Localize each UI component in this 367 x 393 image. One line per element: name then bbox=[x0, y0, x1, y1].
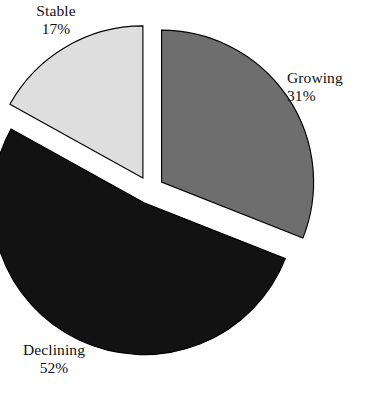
pie-slices-group bbox=[0, 26, 314, 355]
slice-label-declining-name: Declining bbox=[2, 341, 106, 359]
slice-label-growing: Growing 31% bbox=[287, 69, 367, 106]
pie-chart-canvas bbox=[0, 0, 367, 393]
slice-label-stable-percent: 17% bbox=[14, 20, 98, 38]
slice-label-growing-name: Growing bbox=[287, 69, 367, 87]
pie-slice-growing bbox=[162, 30, 314, 238]
pie-chart: Stable 17% Growing 31% Declining 52% bbox=[0, 0, 367, 393]
slice-label-stable-name: Stable bbox=[14, 2, 98, 20]
slice-label-declining: Declining 52% bbox=[2, 341, 106, 378]
slice-label-declining-percent: 52% bbox=[2, 359, 106, 377]
slice-label-stable: Stable 17% bbox=[14, 2, 98, 39]
slice-label-growing-percent: 31% bbox=[287, 87, 367, 105]
